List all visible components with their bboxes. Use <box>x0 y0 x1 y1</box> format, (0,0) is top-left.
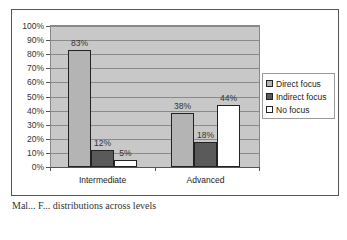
legend-swatch-icon <box>266 93 273 100</box>
y-tick-label: 10% <box>10 148 44 158</box>
x-tick-mark <box>259 167 260 171</box>
legend-swatch-icon <box>266 106 273 113</box>
x-tick-mark <box>155 167 156 171</box>
bar-indirect-focus-advanced <box>194 142 217 167</box>
legend-label: Direct focus <box>276 79 321 89</box>
bar-direct-focus-intermediate <box>68 50 91 167</box>
y-tick-label: 100% <box>10 21 44 31</box>
y-tick-label: 30% <box>10 120 44 130</box>
legend-swatch-icon <box>266 80 273 87</box>
legend-item-indirect-focus: Indirect focus <box>266 90 331 103</box>
bar-direct-focus-advanced <box>171 113 194 167</box>
data-label: 38% <box>168 101 198 111</box>
y-tick-label: 70% <box>10 63 44 73</box>
data-label: 18% <box>191 130 221 140</box>
x-tick-label: Advanced <box>156 175 256 185</box>
gridline <box>51 26 259 27</box>
data-label: 83% <box>65 38 95 48</box>
y-tick-label: 80% <box>10 49 44 59</box>
figure-caption: Mal... F... distributions across levels <box>12 200 156 209</box>
x-tick-label: Intermediate <box>53 175 153 185</box>
y-tick-label: 0% <box>10 162 44 172</box>
plot-area: 83%12%5%38%18%44% <box>50 25 260 168</box>
y-tick-label: 20% <box>10 134 44 144</box>
legend: Direct focus Indirect focus No focus <box>262 73 335 119</box>
y-tick-label: 90% <box>10 35 44 45</box>
bar-no-focus-advanced <box>217 105 240 167</box>
legend-label: Indirect focus <box>276 92 327 102</box>
y-tick-label: 40% <box>10 106 44 116</box>
bar-no-focus-intermediate <box>114 160 137 167</box>
data-label: 12% <box>88 138 118 148</box>
data-label: 44% <box>214 93 244 103</box>
legend-item-direct-focus: Direct focus <box>266 77 331 90</box>
legend-item-no-focus: No focus <box>266 103 331 116</box>
y-tick-label: 50% <box>10 92 44 102</box>
legend-label: No focus <box>276 105 310 115</box>
x-tick-mark <box>50 167 51 171</box>
data-label: 5% <box>111 148 141 158</box>
y-tick-label: 60% <box>10 77 44 87</box>
